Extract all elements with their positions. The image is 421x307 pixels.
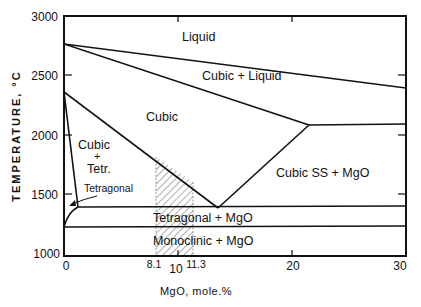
y-tick-3000: 3000 bbox=[31, 10, 58, 24]
plot-canvas: Liquid Cubic + Liquid Cubic Cubic + Tetr… bbox=[0, 0, 421, 307]
solidus-line bbox=[64, 44, 309, 125]
label-cubic-tetr-line2: + bbox=[94, 150, 100, 162]
label-cubic-ss-mgo: Cubic SS + MgO bbox=[276, 166, 370, 180]
x-tick-11-3: 11.3 bbox=[186, 258, 206, 270]
x-tick-0: 0 bbox=[63, 259, 70, 273]
tetragonal-monoclinic-line bbox=[64, 226, 406, 227]
label-cubic-tetr-line3: Tetr. bbox=[87, 162, 111, 176]
y-axis-title: TEMPERATURE, °C bbox=[10, 70, 22, 201]
y-tick-1500: 1500 bbox=[31, 188, 58, 202]
label-monoclinic-mgo: Monoclinic + MgO bbox=[153, 234, 254, 248]
x-tick-20: 20 bbox=[286, 259, 300, 273]
eutectoid-line bbox=[78, 206, 406, 207]
x-tick-8-1: 8.1 bbox=[147, 258, 162, 270]
label-tetragonal-mgo: Tetragonal + MgO bbox=[153, 211, 253, 225]
label-cubic: Cubic bbox=[146, 110, 178, 124]
tetragonal-arrow bbox=[72, 196, 97, 204]
label-cubic-liquid: Cubic + Liquid bbox=[202, 69, 282, 83]
y-tick-2000: 2000 bbox=[31, 129, 58, 143]
phase-diagram: Liquid Cubic + Liquid Cubic Cubic + Tetr… bbox=[0, 0, 421, 307]
x-tick-30: 30 bbox=[393, 259, 407, 273]
eutectic-line bbox=[309, 124, 406, 125]
y-tick-1000: 1000 bbox=[33, 247, 60, 261]
cubic-tetr-boundary bbox=[64, 92, 78, 207]
arrow-head-icon bbox=[69, 200, 76, 206]
x-axis-title: MgO, mole.% bbox=[160, 285, 232, 297]
y-tick-2500: 2500 bbox=[31, 69, 58, 83]
label-liquid: Liquid bbox=[182, 30, 215, 44]
tetragonal-curve bbox=[64, 207, 78, 227]
x-tick-10: 10 bbox=[169, 262, 183, 276]
label-tetragonal: Tetragonal bbox=[84, 182, 133, 194]
